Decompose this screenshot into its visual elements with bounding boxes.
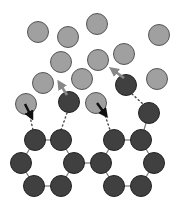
dark-atom [116,75,137,96]
dark-atom [104,130,125,151]
dark-atom [144,153,165,174]
dotted-link [61,113,67,130]
light-atom [147,69,168,90]
dark-atom [24,176,45,197]
light-atom [149,25,170,46]
hexagon-growth-diagram [0,0,190,207]
light-atom [87,14,108,35]
dark-atom [11,153,32,174]
light-atom [33,73,54,94]
dark-atom [104,176,125,197]
dark-atom [25,130,46,151]
light-atom [88,50,109,71]
gray-arrow-icon [113,70,124,78]
dark-atom [91,153,112,174]
light-atom [72,69,93,90]
light-atom [58,27,79,48]
dark-atom [131,130,152,151]
dotted-link [132,94,143,104]
dotted-link [104,112,110,130]
light-atoms [16,14,170,115]
dark-atom [51,176,72,197]
dark-atom [51,130,72,151]
dark-atom [139,103,160,124]
light-atom [51,52,72,73]
dark-atom [64,153,85,174]
dark-atoms [11,75,165,197]
dark-atom [131,176,152,197]
light-atom [114,44,135,65]
dark-atom [59,92,80,113]
bond-lines [21,113,154,186]
light-atom [28,22,49,43]
